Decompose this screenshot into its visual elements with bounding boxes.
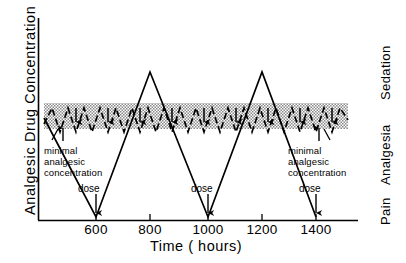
mac-annotation-left-line3: concentration <box>44 168 102 179</box>
mac-annotation-right-line2: analgesic <box>288 157 329 168</box>
mac-annotation-right-line3: concentration <box>288 168 346 179</box>
mac-arrows <box>63 128 319 141</box>
x-tick-label-1200: 1200 <box>246 222 277 237</box>
zone-label-sedation: Sedation <box>378 45 393 100</box>
x-tick-label-600: 600 <box>84 222 107 237</box>
zone-label-pain: Pain <box>378 197 393 225</box>
mac-leader-lines <box>52 129 330 140</box>
y-axis-title: Analgesic Drug Concentration <box>22 6 38 215</box>
figure-drug-concentration-vs-time: Analgesic Drug Concentration Sedation An… <box>0 0 406 263</box>
mac-annotation-left-line1: minimal <box>44 146 77 157</box>
zone-label-analgesia: Analgesia <box>378 124 393 185</box>
x-tick-label-800: 800 <box>138 222 161 237</box>
dose-label-1400: dose <box>299 183 321 194</box>
series-intermittent-large-dose <box>44 72 316 217</box>
x-tick-label-1400: 1400 <box>300 222 331 237</box>
x-tick-label-1000: 1000 <box>192 222 223 237</box>
dose-label-1000: dose <box>191 183 213 194</box>
x-axis-title: Time ( hours) <box>150 238 242 254</box>
dose-label-600: dose <box>78 183 100 194</box>
x-axis-ticks <box>96 214 316 220</box>
mac-annotation-right-line1: minimal <box>288 146 321 157</box>
mac-annotation-left-line2: analgesic <box>44 157 85 168</box>
